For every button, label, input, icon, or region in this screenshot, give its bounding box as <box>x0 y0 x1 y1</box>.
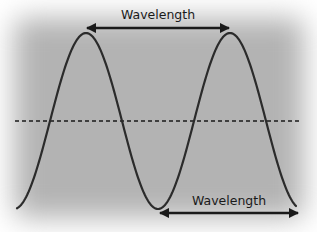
wave-diagram: Wavelength Wavelength <box>0 0 317 232</box>
wave-svg: Wavelength Wavelength <box>0 0 317 232</box>
bottom-wavelength-label: Wavelength <box>192 193 266 208</box>
top-wavelength-label: Wavelength <box>121 7 195 22</box>
